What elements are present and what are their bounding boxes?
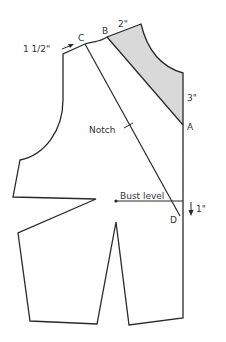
label-drop-measure: 1" (196, 204, 206, 214)
label-b: B (102, 26, 108, 36)
label-side-measure: 3" (187, 93, 197, 103)
label-notch: Notch (89, 125, 115, 135)
bodice-pattern-diagram: B 2" C 1 1/2" 3" A Notch Bust level D 1" (0, 0, 226, 342)
shaded-area (107, 24, 183, 125)
label-shoulder-measure: 2" (118, 19, 128, 29)
label-a: A (187, 122, 194, 132)
drop-arrow-head (189, 210, 194, 216)
label-d: D (170, 215, 177, 225)
label-c: C (78, 33, 84, 43)
label-neck-measure: 1 1/2" (23, 44, 50, 54)
bust-point-dot (114, 199, 117, 202)
label-bust-level: Bust level (120, 191, 164, 201)
